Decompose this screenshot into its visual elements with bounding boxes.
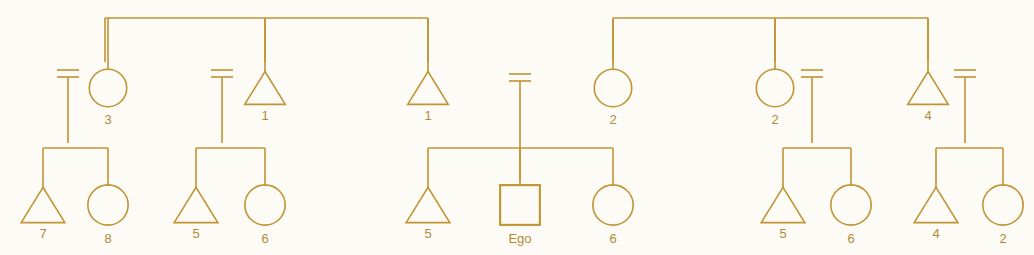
- person-triangle-p-g3-8[interactable]: [761, 187, 805, 222]
- person-label-p-g2-1: 3: [104, 112, 111, 127]
- person-circle-p-g3-2[interactable]: [88, 185, 128, 225]
- person-triangle-p-g3-5[interactable]: [406, 187, 450, 222]
- kinship-diagram-root: 31122478565Ego65642: [0, 0, 1034, 255]
- person-label-p-g2-6: 4: [924, 108, 931, 123]
- person-label-p-g2-2: 1: [261, 108, 268, 123]
- person-triangle-p-g2-2[interactable]: [245, 72, 286, 105]
- person-label-p-g3-8: 5: [779, 226, 786, 241]
- person-triangle-p-g2-3[interactable]: [408, 72, 449, 105]
- person-label-p-g3-7: 6: [609, 231, 616, 246]
- person-square-p-g3-6[interactable]: [500, 185, 540, 225]
- person-circle-p-g2-5[interactable]: [756, 69, 793, 106]
- person-label-p-g3-6: Ego: [508, 231, 531, 246]
- person-label-p-g3-5: 5: [424, 226, 431, 241]
- person-circle-p-g3-11[interactable]: [983, 185, 1023, 225]
- person-label-p-g3-1: 7: [39, 226, 46, 241]
- person-circle-p-g2-4[interactable]: [594, 69, 631, 106]
- person-triangle-p-g3-10[interactable]: [914, 187, 958, 222]
- person-circle-p-g2-1[interactable]: [89, 69, 126, 106]
- kinship-pedigree-svg: 31122478565Ego65642: [0, 0, 1034, 255]
- person-triangle-p-g2-6[interactable]: [908, 72, 949, 105]
- person-label-p-g2-5: 2: [771, 112, 778, 127]
- person-circle-p-g3-9[interactable]: [831, 185, 871, 225]
- person-label-p-g3-9: 6: [847, 231, 854, 246]
- person-circle-p-g3-4[interactable]: [245, 185, 285, 225]
- person-label-p-g3-10: 4: [932, 226, 939, 241]
- person-triangle-p-g3-3[interactable]: [174, 187, 218, 222]
- person-label-p-g3-2: 8: [104, 231, 111, 246]
- person-label-p-g2-3: 1: [424, 108, 431, 123]
- person-label-p-g2-4: 2: [609, 112, 616, 127]
- person-label-p-g3-3: 5: [192, 226, 199, 241]
- person-triangle-p-g3-1[interactable]: [21, 187, 65, 222]
- connector-lines-layer: [43, 18, 1003, 188]
- person-label-p-g3-4: 6: [261, 231, 268, 246]
- person-circle-p-g3-7[interactable]: [593, 185, 633, 225]
- person-label-p-g3-11: 2: [999, 231, 1006, 246]
